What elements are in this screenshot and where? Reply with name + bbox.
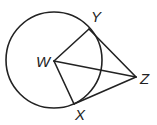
label-y: Y: [91, 8, 102, 25]
label-z: Z: [139, 70, 150, 87]
segments: [54, 29, 136, 104]
segment-wy: [54, 29, 89, 61]
label-w: W: [36, 53, 52, 70]
segment-wx: [54, 61, 74, 104]
label-x: X: [74, 106, 86, 123]
geometry-diagram: W Y Z X: [0, 0, 157, 125]
segment-xz: [74, 77, 136, 104]
